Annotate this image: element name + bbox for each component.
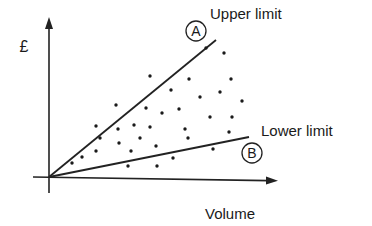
data-point [80, 155, 83, 158]
data-point [198, 95, 201, 98]
scatter-points [70, 46, 243, 167]
marker-b-label: B [247, 145, 256, 161]
upper-limit-line: A [49, 21, 216, 177]
data-point [187, 77, 190, 80]
data-point [144, 106, 147, 109]
data-point [148, 74, 151, 77]
data-point [138, 136, 141, 139]
data-point [94, 149, 97, 152]
data-point [229, 77, 232, 80]
data-point [116, 127, 119, 130]
x-axis-arrow-icon [266, 177, 278, 185]
data-point [171, 156, 174, 159]
data-point [208, 115, 211, 118]
marker-a-label: A [191, 23, 201, 39]
data-point [94, 124, 97, 127]
x-axis-label: Volume [205, 205, 255, 222]
data-point [154, 144, 157, 147]
data-point [218, 90, 221, 93]
data-point [98, 136, 101, 139]
data-point [211, 147, 214, 150]
y-axis [45, 17, 53, 193]
data-point [186, 136, 189, 139]
upper-limit-label: Upper limit [210, 5, 283, 22]
break-even-scatter-diagram: A B £ Upper limit Lower limit Volume [0, 0, 372, 226]
data-point [183, 127, 186, 130]
data-point [126, 164, 129, 167]
data-point [177, 107, 180, 110]
data-point [169, 88, 172, 91]
data-point [227, 130, 230, 133]
data-point [222, 51, 225, 54]
y-axis-label: £ [20, 38, 29, 55]
data-point [230, 115, 233, 118]
data-point [114, 103, 117, 106]
data-point [160, 111, 163, 114]
data-point [129, 149, 132, 152]
data-point [70, 161, 73, 164]
data-point [204, 46, 207, 49]
y-axis-arrow-icon [45, 17, 53, 29]
data-point [148, 125, 151, 128]
data-point [240, 99, 243, 102]
lower-limit-label: Lower limit [261, 122, 334, 139]
data-point [117, 141, 120, 144]
data-point [132, 123, 135, 126]
x-axis [33, 177, 278, 185]
data-point [155, 164, 158, 167]
